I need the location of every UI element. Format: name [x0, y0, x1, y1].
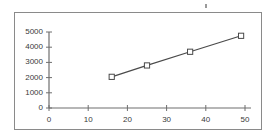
x-tick-label: 50 [231, 116, 259, 124]
data-point-marker [238, 33, 243, 38]
speck-artifact [205, 4, 207, 8]
axes-group [49, 32, 251, 108]
x-tick-label: 30 [153, 116, 181, 124]
y-tick-label: 2000 [15, 74, 43, 82]
x-tick-label: 0 [35, 116, 63, 124]
y-tick-label: 4000 [15, 43, 43, 51]
y-tick-label: 0 [15, 104, 43, 112]
x-tick-label: 20 [113, 116, 141, 124]
x-tick-label: 10 [74, 116, 102, 124]
data-series-group [112, 36, 241, 77]
chart-frame: 010002000300040005000 01020304050 [14, 12, 262, 130]
y-tick-label: 5000 [15, 28, 43, 36]
data-point-marker [144, 63, 149, 68]
y-tick-label: 3000 [15, 58, 43, 66]
data-point-marker [109, 74, 114, 79]
y-tick-label: 1000 [15, 89, 43, 97]
x-tick-label: 40 [192, 116, 220, 124]
data-line [112, 36, 241, 77]
line-chart-plot [15, 13, 261, 129]
chart-page: 010002000300040005000 01020304050 [0, 0, 277, 138]
data-point-marker [188, 49, 193, 54]
